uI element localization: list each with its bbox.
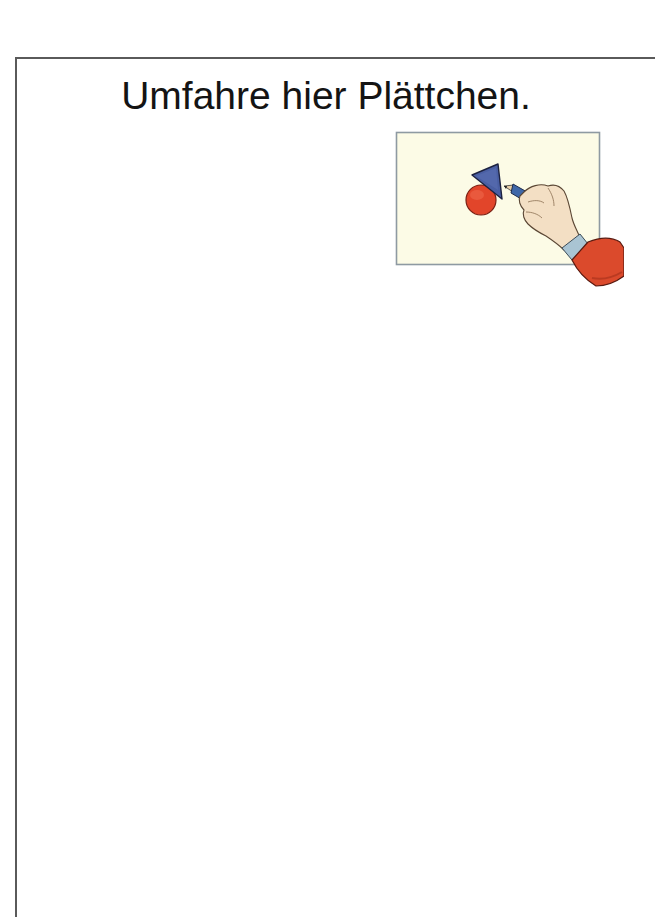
instruction-title: Umfahre hier Plättchen. (104, 72, 548, 120)
tracing-illustration (392, 128, 624, 290)
hand-tracing-shapes-icon (392, 128, 624, 290)
